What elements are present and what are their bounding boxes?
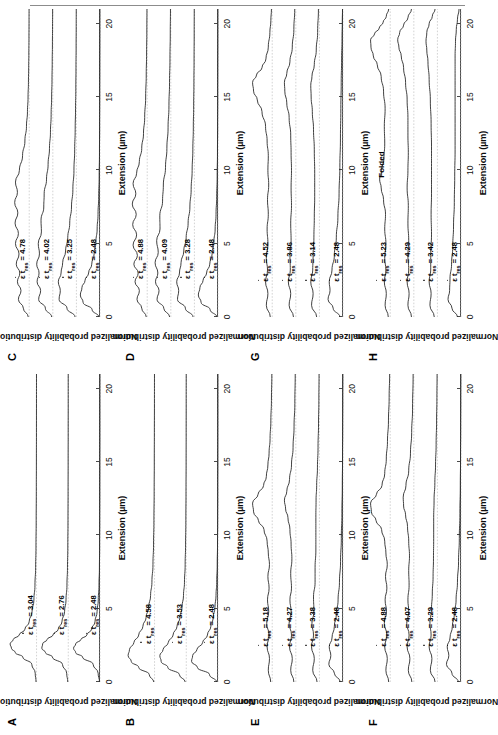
panel-letter: C [6,353,18,361]
strain-rate-label: ε tres = 2.48 [207,604,218,644]
x-tick-label: 5 [104,241,114,246]
strain-rate-label: ε tres = 4.88 [379,607,390,647]
strain-rate-label: ε tres = 3.25 [65,239,76,279]
panel-h: HNormalized probability distribution0510… [367,5,487,363]
panel-g: GNormalized probability distribution0510… [249,5,369,363]
x-tick-label: 15 [222,457,232,466]
panel-body: ANormalized probability distribution0510… [6,370,126,728]
x-axis-label: Extension (µm) [478,9,488,317]
x-tick-label: 20 [222,384,232,393]
panel-f: FNormalized probability distribution0510… [367,370,487,728]
x-tick-label: 10 [465,166,475,175]
plot-area: 05101520Extension (µm)ε tres = 3.04ε tre… [8,374,100,682]
strain-rate-label: ε tres = 4.58 [144,604,155,644]
strain-rate-label: ε tres = 2.48 [332,607,343,647]
plot-area: 05101520Extension (µm)ε tres = 5.18ε tre… [251,374,343,682]
x-axis-label: Extension (µm) [235,374,245,682]
x-tick-label: 10 [347,531,357,540]
panel-c: CNormalized probability distribution0510… [6,5,126,363]
panel-b: BNormalized probability distribution0510… [124,370,244,728]
x-tick-label: 10 [465,531,475,540]
x-tick-label: 20 [465,19,475,28]
strain-rate-label: ε tres = 3.53 [175,604,186,644]
x-tick-label: 0 [347,680,357,685]
curve-stack [126,374,218,682]
x-tick-label: 0 [465,315,475,320]
strain-rate-label: ε tres = 4.09 [160,239,171,279]
panel-body: ENormalized probability distribution0510… [249,370,369,728]
x-tick-label: 5 [465,241,475,246]
distribution-curve [10,374,36,682]
x-tick-label: 0 [104,315,114,320]
x-tick-label: 20 [347,384,357,393]
x-axis-label: Extension (µm) [478,374,488,682]
x-tick-label: 20 [347,19,357,28]
x-tick-label: 20 [465,384,475,393]
strain-rate-label: ε tres = 4.29 [403,242,414,282]
x-tick-label: 0 [347,315,357,320]
strain-rate-label: ε tres = 3.14 [308,242,319,282]
x-tick-label: 15 [465,92,475,101]
plot-area: 05101520Extension (µm)ε tres = 4.88ε tre… [126,9,218,317]
panel-body: HNormalized probability distribution0510… [367,5,487,363]
plot-area: 05101520Extension (µm)ε tres = 4.78ε tre… [8,9,100,317]
strain-rate-label: ε tres = 2.48 [450,242,461,282]
x-tick-label: 10 [222,166,232,175]
x-tick-label: 15 [347,457,357,466]
folded-annotation: Folded [377,151,386,177]
strain-rate-label: ε tres = 2.48 [332,242,343,282]
x-tick-label: 10 [222,531,232,540]
x-tick-label: 20 [104,19,114,28]
x-tick-label: 5 [347,606,357,611]
x-tick-label: 5 [465,606,475,611]
strain-rate-label: ε tres = 3.38 [308,607,319,647]
plot-area: 05101520Extension (µm)ε tres = 4.58ε tre… [126,374,218,682]
strain-rate-label: ε tres = 4.78 [18,239,29,279]
x-axis-label: Extension (µm) [235,9,245,317]
panel-letter: B [124,718,136,726]
strain-rate-label: ε tres = 2.48 [450,607,461,647]
strain-rate-label: ε tres = 4.02 [42,239,53,279]
strain-rate-label: ε tres = 3.86 [285,242,296,282]
panel-letter: D [124,353,136,361]
x-tick-label: 15 [222,92,232,101]
y-axis-label: Normalized probability distribution [113,697,255,707]
x-tick-label: 0 [222,680,232,685]
panel-letter: E [249,719,261,726]
panel-letter: F [367,719,379,726]
plot-area: 05101520Extension (µm)ε tres = 4.52ε tre… [251,9,343,317]
strain-rate-label: ε tres = 2.48 [207,239,218,279]
plot-area: 05101520Extension (µm)ε tres = 5.23ε tre… [369,9,461,317]
panel-body: CNormalized probability distribution0510… [6,5,126,363]
y-axis-label: Normalized probability distribution [356,332,498,342]
strain-rate-label: ε tres = 4.07 [403,607,414,647]
x-tick-label: 5 [104,606,114,611]
strain-rate-label: ε tres = 3.29 [426,607,437,647]
distribution-curve [42,374,68,682]
x-tick-label: 5 [222,241,232,246]
strain-rate-label: ε tres = 4.52 [261,242,272,282]
strain-rate-label: ε tres = 4.88 [136,239,147,279]
strain-rate-label: ε tres = 5.23 [379,242,390,282]
panel-body: BNormalized probability distribution0510… [124,370,244,728]
x-tick-label: 0 [104,680,114,685]
panel-a: ANormalized probability distribution0510… [6,370,126,728]
strain-rate-label: ε tres = 2.48 [89,595,100,635]
strain-rate-label: ε tres = 2.48 [89,239,100,279]
y-axis-label: Normalized probability distribution [356,697,498,707]
strain-rate-label: ε tres = 3.42 [426,242,437,282]
curve-stack [8,374,100,682]
panel-e: ENormalized probability distribution0510… [249,370,369,728]
x-tick-label: 15 [104,92,114,101]
strain-rate-label: ε tres = 5.18 [261,607,272,647]
x-tick-label: 20 [222,19,232,28]
x-tick-label: 10 [104,166,114,175]
strain-rate-label: ε tres = 3.04 [26,595,37,635]
x-tick-label: 0 [465,680,475,685]
x-tick-label: 10 [104,531,114,540]
x-tick-label: 15 [104,457,114,466]
x-tick-label: 10 [347,166,357,175]
panel-letter: G [249,352,261,361]
panel-letter: H [367,353,379,361]
